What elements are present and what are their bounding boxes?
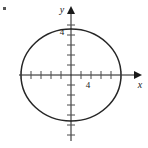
x-axis-arrowhead-icon xyxy=(134,71,142,79)
x-axis-label: x xyxy=(137,79,143,90)
y-axis-arrowhead-icon xyxy=(67,6,75,14)
x-axis-tick-label-4: 4 xyxy=(86,80,91,90)
graph-canvas: 4 4 y x xyxy=(0,0,148,148)
ellipse-graph-figure: 4 4 y x xyxy=(0,0,148,148)
y-axis-label: y xyxy=(59,4,65,15)
y-axis-tick-label-4: 4 xyxy=(60,27,65,37)
corner-dot-icon xyxy=(3,7,6,10)
